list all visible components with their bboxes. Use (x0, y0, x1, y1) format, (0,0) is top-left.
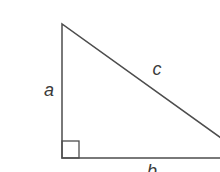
label-side-a: a (44, 80, 54, 100)
triangle-diagram: a c b (40, 16, 220, 172)
label-side-b: b (147, 161, 157, 172)
right-angle-marker-icon (62, 141, 79, 158)
right-triangle-svg: a c b (40, 16, 220, 172)
triangle-outline (62, 24, 220, 158)
label-hypotenuse-c: c (153, 59, 162, 79)
